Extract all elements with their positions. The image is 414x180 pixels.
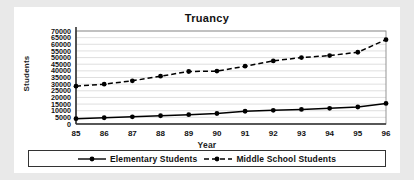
- legend-item-middle-school: Middle School Students: [204, 154, 336, 164]
- svg-text:90: 90: [212, 129, 221, 138]
- x-axis-label: Year: [14, 140, 400, 150]
- legend-label-elementary: Elementary Students: [110, 154, 197, 164]
- legend-label-middle-school: Middle School Students: [236, 154, 336, 164]
- plot-frame: [76, 27, 386, 124]
- svg-text:95: 95: [353, 129, 362, 138]
- x-axis-tick-labels: 858687888990919293949596: [72, 129, 391, 138]
- gridlines: [76, 31, 386, 124]
- svg-text:0: 0: [67, 120, 71, 129]
- svg-text:85: 85: [72, 129, 81, 138]
- svg-text:86: 86: [100, 129, 109, 138]
- series-layer: [74, 37, 389, 121]
- legend-swatch-dashed-line-icon: [204, 154, 232, 164]
- svg-text:88: 88: [156, 129, 165, 138]
- svg-text:94: 94: [325, 129, 334, 138]
- y-axis-tick-labels: 7000065000600005500050000450004000035000…: [51, 27, 71, 129]
- legend-swatch-solid-line-icon: [78, 154, 106, 164]
- svg-text:87: 87: [128, 129, 137, 138]
- svg-text:89: 89: [184, 129, 193, 138]
- chart-card: Truancy Students 70000650006000055000500…: [14, 7, 400, 173]
- chart-legend: Elementary Students Middle School Studen…: [28, 150, 386, 167]
- legend-item-elementary: Elementary Students: [78, 154, 197, 164]
- svg-text:96: 96: [382, 129, 391, 138]
- svg-text:92: 92: [269, 129, 278, 138]
- line-chart-plot: 7000065000600005500050000450004000035000…: [14, 7, 400, 147]
- svg-text:91: 91: [241, 129, 250, 138]
- svg-text:93: 93: [297, 129, 306, 138]
